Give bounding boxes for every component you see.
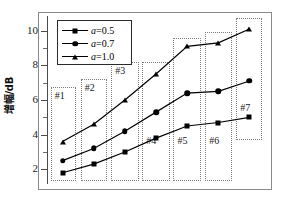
data-point-marker [184, 44, 190, 49]
data-point-marker [60, 158, 66, 164]
data-point-marker [91, 122, 97, 127]
legend-value-0: =0.5 [96, 25, 114, 36]
data-point-marker [153, 72, 159, 77]
circle-marker-sample [62, 38, 88, 49]
square-marker-sample [62, 25, 88, 36]
legend-value-2: =1.0 [96, 51, 114, 62]
chart-figure: 增幅/dB 246810 #1#2#3#4#5#6#7 a=0.5 a=0.7 … [0, 0, 284, 206]
data-point-marker [246, 26, 252, 31]
data-point-marker [184, 90, 190, 96]
data-point-marker [153, 109, 159, 115]
data-point-marker [122, 98, 128, 103]
legend-item-1: a=0.7 [62, 37, 127, 50]
data-point-marker [60, 170, 65, 175]
data-point-marker [247, 115, 252, 120]
data-point-marker [91, 146, 97, 152]
legend-label-1: a=0.7 [91, 38, 114, 49]
data-point-marker [247, 78, 253, 84]
data-point-marker [60, 139, 66, 144]
data-point-marker [122, 149, 127, 154]
triangle-marker-sample [62, 51, 88, 62]
legend-box: a=0.5 a=0.7 a=1.0 [57, 20, 132, 65]
data-point-marker [215, 40, 221, 45]
legend-item-0: a=0.5 [62, 24, 127, 37]
legend-label-0: a=0.5 [91, 25, 114, 36]
data-point-marker [216, 120, 221, 125]
legend-item-2: a=1.0 [62, 50, 127, 63]
legend-label-2: a=1.0 [91, 51, 114, 62]
data-point-marker [185, 123, 190, 128]
series-lines [0, 0, 284, 206]
legend-value-1: =0.7 [96, 38, 114, 49]
data-point-marker [216, 89, 222, 95]
data-point-marker [154, 136, 159, 141]
data-point-marker [122, 128, 128, 134]
data-point-marker [91, 162, 96, 167]
